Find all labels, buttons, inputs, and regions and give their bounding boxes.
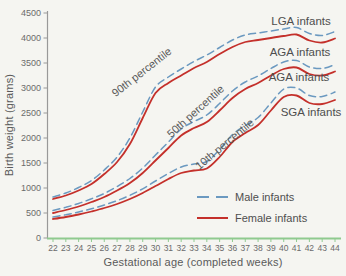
legend-label-female: Female infants	[235, 212, 307, 224]
y-tick-label: 1000	[21, 183, 41, 193]
legend-label-male: Male infants	[235, 191, 294, 203]
x-tick-label: 26	[100, 243, 110, 253]
x-tick-label: 36	[228, 243, 238, 253]
y-axis-title: Birth weight (grams)	[3, 74, 15, 176]
y-tick-label: 1500	[21, 158, 41, 168]
region-label-aga: AGA infants	[270, 46, 331, 58]
region-label-aga: AGA infants	[269, 71, 330, 83]
x-tick-label: 43	[317, 243, 327, 253]
y-tick-label: 3000	[21, 83, 41, 93]
region-label-lga: LGA infants	[271, 15, 331, 27]
x-tick-label: 37	[241, 243, 251, 253]
legend-item-male: Male infants	[197, 186, 307, 207]
x-tick-label: 31	[164, 243, 174, 253]
x-tick-label: 22	[48, 243, 58, 253]
region-label-sga: SGA infants	[281, 106, 342, 118]
y-tick-label: 4000	[21, 33, 41, 43]
x-tick-label: 42	[305, 243, 315, 253]
x-tick-label: 35	[215, 243, 225, 253]
y-tick-label: 2500	[21, 108, 41, 118]
x-tick-label: 32	[176, 243, 186, 253]
female-solid-line-swatch	[197, 217, 228, 219]
male-dashed-line-swatch	[197, 196, 228, 198]
x-tick-label: 24	[74, 243, 84, 253]
x-tick-label: 25	[87, 243, 97, 253]
x-tick-label: 40	[279, 243, 289, 253]
x-tick-label: 27	[112, 243, 122, 253]
x-tick-label: 34	[202, 243, 212, 253]
legend: Male infants Female infants	[197, 186, 307, 228]
curve-label: 90th percentile	[109, 45, 173, 99]
x-tick-label: 28	[125, 243, 135, 253]
y-tick-label: 2000	[21, 133, 41, 143]
legend-item-female: Female infants	[197, 207, 307, 228]
y-tick-label: 3500	[21, 58, 41, 68]
x-tick-label: 30	[151, 243, 161, 253]
x-tick-label: 33	[189, 243, 199, 253]
x-tick-label: 38	[253, 243, 263, 253]
curve-label: 50th percentile	[164, 82, 226, 139]
y-tick-label: 0	[36, 233, 41, 243]
y-tick-label: 4500	[21, 8, 41, 18]
y-tick-label: 500	[26, 208, 41, 218]
x-tick-label: 41	[292, 243, 302, 253]
x-axis-title: Gestational age (completed weeks)	[103, 256, 282, 268]
x-tick-label: 23	[61, 243, 71, 253]
chart-canvas: 0500100015002000250030003500400045002223…	[0, 0, 346, 276]
x-tick-label: 29	[138, 243, 148, 253]
x-tick-label: 39	[266, 243, 276, 253]
birth-weight-percentile-chart: 0500100015002000250030003500400045002223…	[0, 0, 346, 276]
x-tick-label: 44	[330, 243, 340, 253]
